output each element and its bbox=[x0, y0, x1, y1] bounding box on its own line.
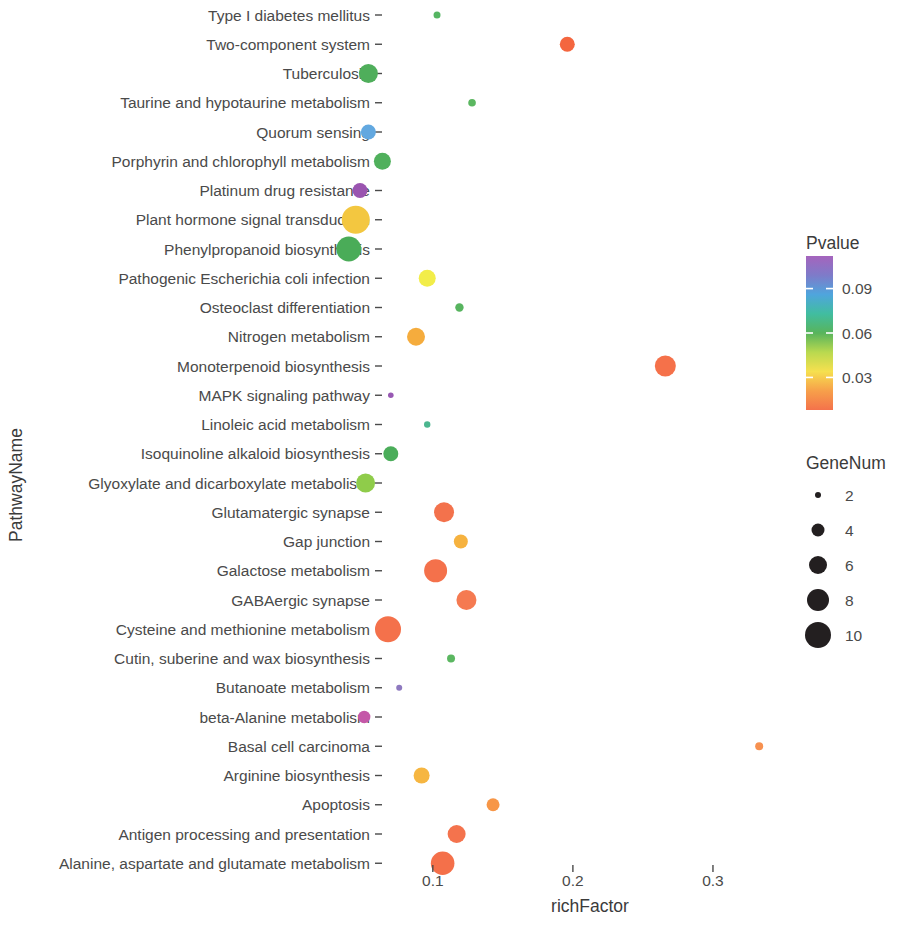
y-axis-tick-label: Quorum sensing bbox=[256, 124, 370, 141]
data-point-bubble bbox=[447, 655, 455, 663]
x-axis-tick-label: 0.1 bbox=[422, 872, 444, 889]
y-axis-tick-label: Apoptosis bbox=[302, 796, 370, 813]
y-axis-tick-label: Plant hormone signal transduction bbox=[136, 211, 370, 228]
chart-canvas: PathwayName Type I diabetes mellitusTwo-… bbox=[0, 0, 900, 931]
y-axis-tick-label: beta-Alanine metabolism bbox=[199, 709, 370, 726]
data-point-bubble bbox=[375, 616, 401, 642]
y-axis-tick-label: Cutin, suberine and wax biosynthesis bbox=[114, 650, 370, 667]
pvalue-legend-label: 0.03 bbox=[842, 369, 872, 386]
data-point-bubble bbox=[456, 590, 476, 610]
data-point-bubble bbox=[424, 421, 430, 427]
y-axis-tick-label: Nitrogen metabolism bbox=[228, 328, 370, 345]
y-axis-tick-label: Galactose metabolism bbox=[217, 562, 370, 579]
data-point-bubble bbox=[424, 559, 447, 582]
data-point-bubble bbox=[396, 685, 402, 691]
data-point-bubble bbox=[755, 742, 763, 750]
y-axis-tick-label: Osteoclast differentiation bbox=[200, 299, 370, 316]
pvalue-legend-label: 0.06 bbox=[842, 325, 872, 342]
data-point-bubble bbox=[356, 474, 375, 493]
y-axis-tick-label: Porphyrin and chlorophyll metabolism bbox=[112, 153, 370, 170]
data-point-bubble bbox=[358, 711, 370, 723]
plot-background bbox=[0, 0, 900, 931]
pvalue-legend-label: 0.09 bbox=[842, 280, 872, 297]
data-point-bubble bbox=[560, 37, 575, 52]
x-axis-tick-label: 0.2 bbox=[562, 872, 584, 889]
genenum-legend-label: 10 bbox=[845, 627, 863, 644]
y-axis-tick-label: Basal cell carcinoma bbox=[228, 738, 371, 755]
data-point-bubble bbox=[336, 237, 361, 262]
genenum-legend-bubble bbox=[805, 622, 831, 648]
data-point-bubble bbox=[383, 446, 398, 461]
data-point-bubble bbox=[434, 502, 454, 522]
genenum-legend-title: GeneNum bbox=[806, 453, 886, 473]
y-axis-tick-label: Butanoate metabolism bbox=[216, 679, 370, 696]
data-point-bubble bbox=[352, 183, 367, 198]
genenum-legend-bubble bbox=[815, 492, 821, 498]
y-axis-tick-label: Glyoxylate and dicarboxylate metabolism bbox=[88, 475, 370, 492]
y-axis-tick-label: Tuberculosis bbox=[283, 65, 371, 82]
y-axis-tick-label: Pathogenic Escherichia coli infection bbox=[118, 270, 370, 287]
genenum-legend-bubble bbox=[812, 524, 825, 537]
data-point-bubble bbox=[388, 392, 394, 398]
y-axis-tick-label: Taurine and hypotaurine metabolism bbox=[120, 94, 370, 111]
y-axis-title: PathwayName bbox=[6, 428, 26, 542]
y-axis-tick-label: Platinum drug resistance bbox=[199, 182, 370, 199]
data-point-bubble bbox=[374, 153, 391, 170]
data-point-bubble bbox=[359, 64, 378, 83]
genenum-legend-label: 2 bbox=[845, 487, 854, 504]
genenum-legend-label: 4 bbox=[845, 522, 854, 539]
y-axis-tick-label: Gap junction bbox=[283, 533, 370, 550]
y-axis-tick-label: Alanine, aspartate and glutamate metabol… bbox=[59, 855, 370, 872]
genenum-legend-bubble bbox=[809, 556, 827, 574]
data-point-bubble bbox=[655, 356, 676, 377]
genenum-legend-bubble bbox=[807, 589, 829, 611]
y-axis-tick-label: MAPK signaling pathway bbox=[199, 387, 371, 404]
y-axis-tick-label: Arginine biosynthesis bbox=[224, 767, 371, 784]
data-point-bubble bbox=[454, 535, 468, 549]
y-axis-tick-label: Antigen processing and presentation bbox=[118, 826, 370, 843]
data-point-bubble bbox=[448, 825, 466, 843]
y-axis-tick-label: Type I diabetes mellitus bbox=[208, 7, 370, 24]
data-point-bubble bbox=[487, 798, 500, 811]
data-point-bubble bbox=[455, 303, 463, 311]
genenum-legend-label: 8 bbox=[845, 592, 854, 609]
data-point-bubble bbox=[419, 270, 436, 287]
data-point-bubble bbox=[361, 125, 376, 140]
pvalue-legend-title: Pvalue bbox=[806, 233, 860, 253]
y-axis-tick-label: Monoterpenoid biosynthesis bbox=[177, 358, 370, 375]
y-axis-tick-label: GABAergic synapse bbox=[231, 592, 370, 609]
x-axis-tick-label: 0.3 bbox=[702, 872, 724, 889]
data-point-bubble bbox=[407, 328, 425, 346]
data-point-bubble bbox=[468, 99, 476, 107]
y-axis-tick-label: Isoquinoline alkaloid biosynthesis bbox=[141, 445, 370, 462]
bubble-plot-figure: PathwayName Type I diabetes mellitusTwo-… bbox=[0, 0, 900, 931]
genenum-legend-label: 6 bbox=[845, 557, 854, 574]
x-axis-title: richFactor bbox=[551, 896, 629, 916]
y-axis-tick-label: Cysteine and methionine metabolism bbox=[116, 621, 370, 638]
data-point-bubble bbox=[434, 12, 441, 19]
data-point-bubble bbox=[414, 768, 430, 784]
y-axis-tick-label: Linoleic acid metabolism bbox=[201, 416, 370, 433]
y-axis-tick-label: Glutamatergic synapse bbox=[211, 504, 370, 521]
y-axis-tick-label: Two-component system bbox=[206, 36, 370, 53]
data-point-bubble bbox=[342, 206, 370, 234]
